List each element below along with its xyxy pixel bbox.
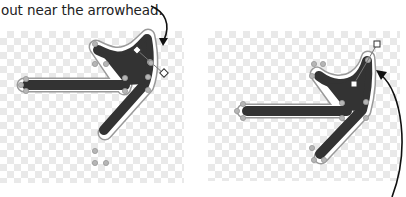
arrow-shape-before[interactable] (24, 36, 151, 133)
handle-square-icon (374, 41, 380, 47)
handle-square-icon (351, 81, 357, 87)
arrow-shape-after[interactable] (244, 58, 369, 157)
callout-arrow-after (376, 70, 402, 197)
figure-overlay (0, 0, 406, 197)
handle-diamond-icon (160, 69, 168, 77)
